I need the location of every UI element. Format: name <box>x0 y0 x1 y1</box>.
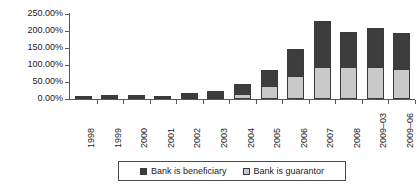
x-tick-label: 2002 <box>193 128 202 148</box>
bar-group <box>181 93 198 99</box>
bar-segment-beneficiary <box>367 28 384 67</box>
bar-group <box>340 32 357 99</box>
legend-item-guarantor: Bank is guarantor <box>243 167 325 176</box>
y-tick-mark <box>65 65 69 66</box>
x-tick-label: 2005 <box>273 128 282 148</box>
bar-group <box>75 96 92 99</box>
x-tick-label: 1998 <box>87 128 96 148</box>
x-tick-label: 2001 <box>167 128 176 148</box>
y-tick-label: 0.00% <box>8 94 63 103</box>
legend-item-beneficiary: Bank is beneficiary <box>140 167 227 176</box>
bar-group <box>314 21 331 99</box>
bar-group <box>128 95 145 99</box>
bar-segment-beneficiary <box>234 84 251 94</box>
bar-segment-guarantor <box>234 94 251 99</box>
y-tick-mark <box>65 48 69 49</box>
bar-segment-guarantor <box>287 76 304 99</box>
bar-segment-guarantor <box>367 67 384 99</box>
y-tick-label: 100.00% <box>8 60 63 69</box>
x-tick-label: 2004 <box>247 128 256 148</box>
bar-segment-beneficiary <box>340 32 357 67</box>
bar-group <box>261 70 278 99</box>
x-tick-label: 2008 <box>353 128 362 148</box>
bar-segment-beneficiary <box>314 21 331 67</box>
bar-segment-guarantor <box>207 97 224 99</box>
chart-container: 250.00% 200.00% 150.00% 100.00% 50.00% 0… <box>0 0 419 195</box>
bar-group <box>101 95 118 99</box>
x-tick-label: 2009–03 <box>379 113 388 148</box>
bar-segment-guarantor <box>181 97 198 99</box>
bar-group <box>287 49 304 99</box>
y-tick-mark <box>65 82 69 83</box>
legend-swatch-icon <box>243 168 250 175</box>
y-tick-mark <box>65 14 69 15</box>
y-tick-label: 250.00% <box>8 9 63 18</box>
bar-segment-beneficiary <box>287 49 304 76</box>
bar-group <box>154 96 171 99</box>
bar-segment-guarantor <box>340 67 357 99</box>
bar-segment-guarantor <box>75 97 92 99</box>
bar-group <box>207 91 224 99</box>
x-axis-labels: 1998199920002001200220032004200520062007… <box>70 104 415 154</box>
y-tick-mark <box>65 31 69 32</box>
y-tick-mark <box>65 99 69 100</box>
legend-label: Bank is beneficiary <box>151 167 227 176</box>
bar-segment-beneficiary <box>393 33 410 68</box>
bar-segment-guarantor <box>261 86 278 99</box>
bar-segment-guarantor <box>393 69 410 99</box>
x-axis-line <box>69 99 415 100</box>
legend-swatch-icon <box>140 168 147 175</box>
x-tick-label: 1999 <box>114 128 123 148</box>
bar-segment-guarantor <box>154 97 171 99</box>
chart-legend: Bank is beneficiary Bank is guarantor <box>118 161 346 181</box>
bar-group <box>367 28 384 99</box>
legend-label: Bank is guarantor <box>254 167 325 176</box>
bar-segment-guarantor <box>128 97 145 99</box>
y-tick-label: 150.00% <box>8 43 63 52</box>
bar-segment-guarantor <box>314 67 331 99</box>
bar-segment-beneficiary <box>261 70 278 86</box>
bar-group <box>234 84 251 99</box>
y-tick-label: 200.00% <box>8 26 63 35</box>
bar-group <box>393 33 410 99</box>
x-tick-label: 2003 <box>220 128 229 148</box>
x-tick-label: 2009–06 <box>406 113 415 148</box>
y-tick-label: 50.00% <box>8 77 63 86</box>
x-tick-mark <box>415 100 416 104</box>
plot-area <box>70 14 415 99</box>
y-axis-labels: 250.00% 200.00% 150.00% 100.00% 50.00% 0… <box>8 0 63 195</box>
x-tick-label: 2007 <box>326 128 335 148</box>
x-tick-label: 2006 <box>300 128 309 148</box>
x-tick-label: 2000 <box>140 128 149 148</box>
bar-segment-guarantor <box>101 97 118 99</box>
